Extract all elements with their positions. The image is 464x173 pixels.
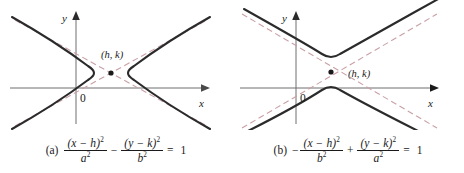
asymptotes-b [242, 14, 437, 128]
equation-b-lead-sign: − [292, 144, 299, 156]
origin-label: 0 [300, 92, 306, 104]
axes-a [10, 11, 210, 124]
y-axis-arrow [292, 11, 300, 20]
x-axis-label: x [427, 97, 433, 109]
equation-b-equals: = [403, 144, 410, 156]
equation-b-tag: (b) [274, 144, 287, 156]
y-axis-arrow [72, 11, 80, 20]
equation-b-term1-numerator: (x − h)2 [300, 137, 342, 149]
equation-a-term1-denominator-exponent: 2 [87, 151, 91, 159]
center-point-label: (h, k) [101, 49, 124, 61]
hyperbola-b-lower-branch [244, 87, 440, 130]
x-axis-label: x [198, 97, 204, 109]
center-dot [328, 69, 333, 74]
equation-b-operator: + [347, 144, 354, 156]
hyperbola-figure: y x 0 (h, k) (a) (x − h)2 a2 − (y − k)2 … [0, 0, 464, 173]
plot-a-svg: y x 0 (h, k) [0, 0, 232, 130]
panel-b: y x 0 (h, k) (b) − (x − h)2 b2 + (y − k)… [232, 0, 464, 173]
hyperbola-b-curves [244, 0, 440, 130]
plot-a: y x 0 (h, k) [0, 0, 232, 130]
plot-b: y x 0 (h, k) [232, 0, 464, 130]
panel-a: y x 0 (h, k) (a) (x − h)2 a2 − (y − k)2 … [0, 0, 232, 173]
x-axis-arrow [430, 84, 439, 92]
equation-b-term1-numerator-exponent: 2 [336, 137, 340, 145]
equation-a-term2-numerator-text: (y − k) [124, 137, 156, 149]
hyperbola-a-left-branch [12, 17, 94, 129]
equation-a-term1-numerator-exponent: 2 [100, 137, 104, 145]
equation-b-term1: (x − h)2 b2 [300, 137, 342, 163]
center-point-label: (h, k) [348, 68, 371, 80]
equation-a-term1-numerator: (x − h)2 [64, 137, 106, 149]
equation-b-term2: (y − k)2 a2 [357, 137, 399, 163]
equation-b-term1-numerator-text: (x − h) [303, 137, 336, 149]
equation-a-operator: − [111, 144, 118, 156]
plot-b-svg: y x 0 (h, k) [232, 0, 464, 130]
y-axis-label: y [61, 12, 67, 24]
equation-b-term1-denominator: b2 [314, 152, 330, 164]
x-axis-arrow [201, 84, 210, 92]
equation-b-term2-numerator: (y − k)2 [357, 137, 399, 149]
hyperbola-b-upper-branch [244, 0, 440, 57]
equation-a-term1-numerator-text: (x − h) [67, 137, 100, 149]
equation-a-term2-denominator-exponent: 2 [143, 151, 147, 159]
equation-a: (a) (x − h)2 a2 − (y − k)2 b2 = 1 [46, 137, 187, 163]
equation-a-tag: (a) [46, 144, 59, 156]
hyperbola-a-right-branch [128, 17, 210, 129]
equation-a-term2-denominator: b2 [134, 152, 150, 164]
equation-a-term2: (y − k)2 b2 [121, 137, 163, 163]
equation-a-term1: (x − h)2 a2 [64, 137, 106, 163]
center-dot [108, 70, 113, 75]
y-axis-label: y [281, 12, 287, 24]
caption-b: (b) − (x − h)2 b2 + (y − k)2 a2 = 1 [232, 128, 464, 173]
equation-b-term2-numerator-text: (y − k) [360, 137, 392, 149]
equation-b-term1-denominator-exponent: 2 [323, 151, 327, 159]
equation-b: (b) − (x − h)2 b2 + (y − k)2 a2 = 1 [274, 137, 423, 163]
caption-a: (a) (x − h)2 a2 − (y − k)2 b2 = 1 [0, 128, 232, 173]
axes-b [240, 11, 439, 124]
equation-b-term2-numerator-exponent: 2 [392, 137, 396, 145]
origin-label: 0 [80, 92, 86, 104]
equation-b-term2-denominator-exponent: 2 [379, 151, 383, 159]
equation-a-equals: = [167, 144, 174, 156]
equation-a-term2-numerator-exponent: 2 [156, 137, 160, 145]
equation-a-rhs: 1 [181, 144, 187, 156]
equation-a-term2-numerator: (y − k)2 [121, 137, 163, 149]
equation-b-term2-denominator: a2 [371, 152, 387, 164]
equation-a-term1-denominator: a2 [78, 152, 94, 164]
equation-b-rhs: 1 [417, 144, 423, 156]
